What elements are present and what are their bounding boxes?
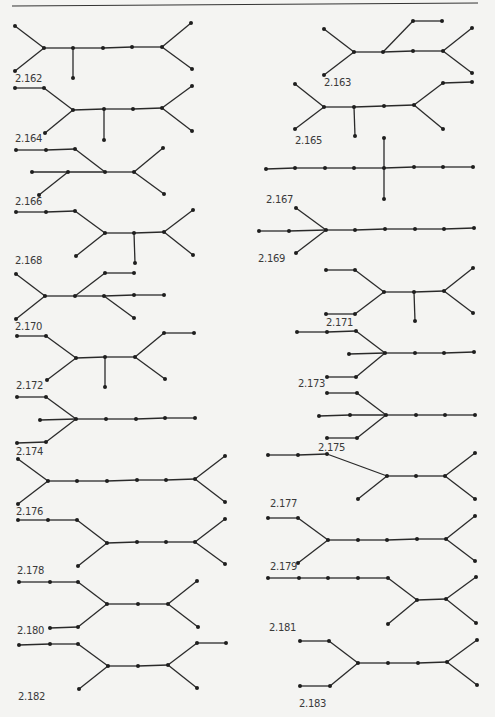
graph-vertex — [415, 537, 419, 541]
graph-edge — [162, 23, 191, 47]
graph-vertex — [354, 375, 358, 379]
graph-vertex — [105, 602, 109, 606]
graph-edge — [446, 539, 475, 561]
graph-vertex — [16, 457, 20, 461]
graph-edge — [296, 230, 326, 253]
tree-graph-2-162: 2.162 — [13, 21, 194, 84]
graph-edge — [134, 148, 163, 172]
graph-edge — [168, 665, 197, 688]
graph-vertex — [191, 208, 195, 212]
graph-label: 2.182 — [18, 691, 45, 702]
graph-vertex — [382, 197, 386, 201]
graph-vertex — [160, 45, 164, 49]
graph-label: 2.171 — [326, 317, 353, 328]
graph-edge — [168, 604, 198, 627]
graph-vertex — [412, 165, 416, 169]
graph-vertex — [45, 378, 49, 382]
graph-vertex — [325, 375, 329, 379]
graph-vertex — [264, 167, 268, 171]
graph-edge — [195, 542, 225, 564]
tree-graph-2-166: 2.166 — [14, 146, 166, 207]
graph-edge — [78, 543, 107, 566]
graph-vertex — [193, 416, 197, 420]
graph-edge — [15, 26, 44, 48]
graph-vertex — [442, 289, 446, 293]
graph-edge — [40, 419, 76, 420]
graph-vertex — [353, 228, 357, 232]
graph-vertex — [132, 170, 136, 174]
graph-vertex — [101, 46, 105, 50]
graph-vertex — [76, 625, 80, 629]
graph-vertex — [15, 441, 19, 445]
graph-vertex — [30, 170, 34, 174]
graph-vertex — [193, 477, 197, 481]
tree-graph-2-178: 2.178 — [16, 517, 227, 576]
graph-vertex — [44, 334, 48, 338]
graph-vertex — [136, 602, 140, 606]
tree-graph-2-168: 2.168 — [14, 208, 195, 266]
graph-vertex — [347, 352, 351, 356]
graph-label: 2.162 — [15, 73, 42, 84]
graph-vertex — [386, 576, 390, 580]
graph-vertex — [223, 562, 227, 566]
graph-vertex — [383, 227, 387, 231]
graph-label: 2.179 — [270, 561, 297, 572]
graph-vertex — [191, 253, 195, 257]
graph-edge — [444, 268, 473, 291]
graph-label: 2.172 — [16, 380, 43, 391]
graph-edge — [414, 292, 415, 321]
graph-edge — [383, 51, 413, 52]
graph-vertex — [190, 129, 194, 133]
graph-vertex — [298, 684, 302, 688]
graph-vertex — [442, 351, 446, 355]
graph-vertex — [42, 46, 46, 50]
graph-edge — [298, 540, 328, 563]
graph-label: 2.176 — [16, 506, 43, 517]
graph-edge — [134, 172, 164, 194]
graph-label: 2.173 — [298, 378, 325, 389]
tree-graph-2-175: 2.175 — [317, 391, 477, 453]
tree-graph-2-170: 2.170 — [14, 271, 166, 332]
tree-graph-2-179: 2.179 — [266, 514, 477, 572]
graph-edge — [46, 149, 75, 150]
graph-vertex — [471, 165, 475, 169]
graph-vertex — [66, 170, 70, 174]
graph-vertex — [15, 395, 19, 399]
graph-vertex — [162, 192, 166, 196]
graph-vertex — [196, 625, 200, 629]
graph-edge — [295, 84, 324, 107]
graph-edge — [327, 454, 387, 476]
graph-vertex — [192, 331, 196, 335]
graph-edge — [388, 600, 417, 624]
graph-edge — [138, 665, 168, 666]
graph-vertex — [442, 227, 446, 231]
graph-vertex — [75, 518, 79, 522]
graph-edge — [78, 644, 108, 666]
graph-edge — [443, 51, 472, 73]
graph-vertex — [132, 271, 136, 275]
graph-vertex — [297, 576, 301, 580]
graph-edge — [295, 107, 324, 129]
graph-vertex — [328, 684, 332, 688]
graph-vertex — [474, 575, 478, 579]
graph-vertex — [325, 452, 329, 456]
graph-vertex — [166, 602, 170, 606]
graph-vertex — [295, 330, 299, 334]
graph-vertex — [322, 27, 326, 31]
graph-vertex — [17, 643, 21, 647]
graph-label: 2.169 — [258, 253, 285, 264]
graph-vertex — [471, 266, 475, 270]
graph-edge — [384, 105, 414, 106]
graph-vertex — [48, 626, 52, 630]
graph-edge — [324, 29, 354, 52]
graph-edge — [104, 296, 134, 318]
graphs-layer: 2.1622.1632.1642.1652.1662.1672.1682.169… — [13, 19, 479, 709]
graph-edge — [134, 233, 135, 263]
graph-vertex — [444, 597, 448, 601]
tree-graph-2-181: 2.181 — [266, 575, 478, 633]
graph-vertex — [130, 45, 134, 49]
graph-vertex — [445, 660, 449, 664]
graph-vertex — [415, 598, 419, 602]
graph-vertex — [473, 451, 477, 455]
graph-vertex — [384, 413, 388, 417]
